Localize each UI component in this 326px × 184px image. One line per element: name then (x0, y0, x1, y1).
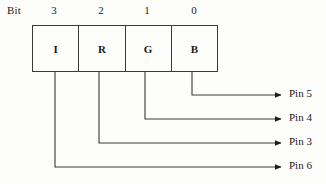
register-box: I R G B (32, 25, 218, 72)
bit-cell-b: B (172, 26, 217, 71)
pin-label-pin-3: Pin 3 (289, 135, 312, 147)
pin-label-pin-4: Pin 4 (289, 111, 312, 123)
bit-number-1: 1 (124, 4, 170, 16)
bit-cell-r: R (79, 26, 125, 71)
pin-label-pin-5: Pin 5 (289, 87, 312, 99)
bit-cell-label-g: G (144, 43, 153, 55)
bit-number-3: 3 (31, 4, 77, 16)
bit-to-pin-mapping-diagram: Bit 3 2 1 0 I R G B Pin 5 Pin 4 Pin 3 Pi… (0, 0, 326, 184)
bit-cell-label-r: R (98, 43, 106, 55)
pin-label-pin-6: Pin 6 (289, 159, 312, 171)
bit-cell-i: I (33, 26, 79, 71)
wire-bit2-to-pin3 (99, 72, 281, 143)
bit-number-0: 0 (171, 4, 217, 16)
bit-axis-caption: Bit (7, 4, 21, 16)
bit-cell-label-b: B (191, 43, 198, 55)
bit-cell-label-i: I (53, 43, 57, 55)
bit-cell-g: G (126, 26, 172, 71)
bit-number-2: 2 (78, 4, 124, 16)
wire-bit0-to-pin5 (192, 72, 281, 95)
